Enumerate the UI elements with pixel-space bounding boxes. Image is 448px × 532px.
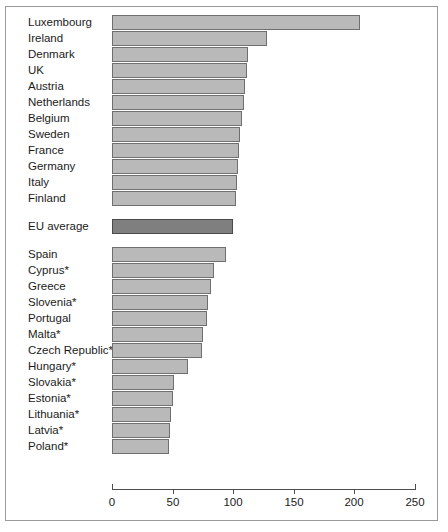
bar <box>112 391 173 406</box>
bar <box>112 15 360 30</box>
chart-row: Slovakia* <box>0 374 448 390</box>
bar <box>112 143 239 158</box>
bar <box>112 263 214 278</box>
chart-row: Portugal <box>0 310 448 326</box>
bar <box>112 247 226 262</box>
bar <box>112 279 211 294</box>
x-axis-tick <box>415 484 416 490</box>
chart-row: Denmark <box>0 46 448 62</box>
x-axis-tick <box>294 489 295 494</box>
chart-figure: LuxembourgIrelandDenmarkUKAustriaNetherl… <box>0 0 448 532</box>
x-axis-tick-label: 100 <box>223 496 242 508</box>
chart-row: Netherlands <box>0 94 448 110</box>
chart-row: Austria <box>0 78 448 94</box>
bar <box>112 79 245 94</box>
chart-row: Germany <box>0 158 448 174</box>
chart-row: Sweden <box>0 126 448 142</box>
chart-row: France <box>0 142 448 158</box>
x-axis-tick <box>354 489 355 494</box>
bar <box>112 127 240 142</box>
chart-row: Luxembourg <box>0 14 448 30</box>
x-axis-tick-label: 200 <box>344 496 363 508</box>
chart-row: Slovenia* <box>0 294 448 310</box>
x-axis-tick <box>233 489 234 494</box>
x-axis-tick-label: 50 <box>167 496 180 508</box>
bar <box>112 295 208 310</box>
bar <box>112 31 267 46</box>
x-axis-line <box>112 489 415 490</box>
x-axis-tick-label: 250 <box>405 496 424 508</box>
bar <box>112 63 247 78</box>
bar-chart-plot: LuxembourgIrelandDenmarkUKAustriaNetherl… <box>0 0 448 532</box>
bar <box>112 343 202 358</box>
x-axis-tick <box>112 484 113 490</box>
bar <box>112 95 244 110</box>
bar <box>112 175 237 190</box>
chart-row: Italy <box>0 174 448 190</box>
chart-row: Belgium <box>0 110 448 126</box>
chart-row: UK <box>0 62 448 78</box>
bar <box>112 375 174 390</box>
chart-row: Czech Republic* <box>0 342 448 358</box>
x-axis-tick-label: 0 <box>109 496 115 508</box>
chart-row: Ireland <box>0 30 448 46</box>
chart-row: Lithuania* <box>0 406 448 422</box>
chart-row: Latvia* <box>0 422 448 438</box>
chart-row: Spain <box>0 246 448 262</box>
chart-row: Malta* <box>0 326 448 342</box>
chart-row: Cyprus* <box>0 262 448 278</box>
chart-row: Hungary* <box>0 358 448 374</box>
chart-row: Estonia* <box>0 390 448 406</box>
bar <box>112 311 207 326</box>
x-axis-tick <box>173 489 174 494</box>
bar <box>112 423 170 438</box>
chart-row: EU average <box>0 218 448 234</box>
bar <box>112 359 188 374</box>
bar <box>112 407 171 422</box>
chart-row: Greece <box>0 278 448 294</box>
bar <box>112 111 242 126</box>
x-axis-tick-label: 150 <box>284 496 303 508</box>
eu-average-bar <box>112 219 233 234</box>
bar <box>112 439 169 454</box>
bar <box>112 327 203 342</box>
bar <box>112 47 248 62</box>
bar <box>112 191 236 206</box>
bar <box>112 159 238 174</box>
chart-row: Poland* <box>0 438 448 454</box>
chart-row: Finland <box>0 190 448 206</box>
